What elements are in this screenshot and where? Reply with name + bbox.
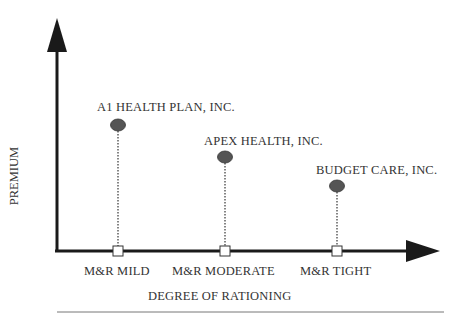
plan-label-budget: BUDGET CARE, INC. bbox=[316, 163, 437, 178]
y-axis-label: PREMIUM bbox=[7, 147, 22, 205]
plan-label-a1: A1 HEALTH PLAN, INC. bbox=[97, 100, 235, 115]
point-a1 bbox=[111, 119, 126, 131]
plan-label-apex: APEX HEALTH, INC. bbox=[204, 134, 323, 149]
x-axis-arrow-icon bbox=[406, 240, 440, 262]
x-axis-label: DEGREE OF RATIONING bbox=[148, 289, 291, 304]
tick-marker-mild bbox=[113, 246, 123, 256]
tick-marker-tight bbox=[332, 246, 342, 256]
tick-marker-moderate bbox=[220, 246, 230, 256]
tick-label-tight: M&R TIGHT bbox=[300, 264, 371, 279]
tick-label-mild: M&R MILD bbox=[84, 264, 150, 279]
point-budget bbox=[330, 180, 345, 192]
y-axis-arrow-icon bbox=[47, 18, 67, 52]
tick-label-moderate: M&R MODERATE bbox=[172, 264, 275, 279]
point-apex bbox=[218, 151, 233, 163]
